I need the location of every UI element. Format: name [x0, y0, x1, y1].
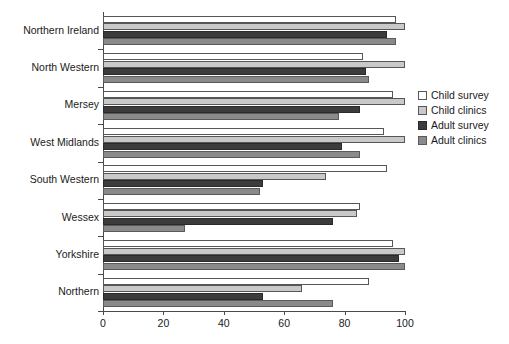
- bar-row: [103, 113, 405, 120]
- bar-child-clinics[interactable]: [103, 98, 405, 105]
- bar-child-clinics[interactable]: [103, 285, 302, 292]
- bar-group: [103, 53, 405, 83]
- x-axis-tick: [103, 311, 104, 315]
- x-axis-tick: [224, 311, 225, 315]
- bar-child-survey[interactable]: [103, 165, 387, 172]
- y-axis-tick: [98, 236, 103, 237]
- legend-item-adult-survey[interactable]: Adult survey: [418, 118, 489, 132]
- bar-adult-clinics[interactable]: [103, 225, 185, 232]
- bar-child-survey[interactable]: [103, 16, 396, 23]
- x-axis-tick-label: 100: [385, 317, 425, 329]
- bar-group: [103, 203, 405, 233]
- y-axis-tick: [98, 199, 103, 200]
- bar-row: [103, 16, 405, 23]
- category-label: Wessex: [0, 211, 99, 223]
- bar-row: [103, 61, 405, 68]
- bar-adult-survey[interactable]: [103, 31, 387, 38]
- bar-row: [103, 278, 405, 285]
- legend-swatch-icon: [418, 106, 427, 115]
- bar-row: [103, 225, 405, 232]
- category-label: North Western: [0, 61, 99, 73]
- bar-child-clinics[interactable]: [103, 136, 405, 143]
- legend-item-adult-clinics[interactable]: Adult clinics: [418, 133, 489, 147]
- bar-child-clinics[interactable]: [103, 23, 405, 30]
- bar-group: [103, 91, 405, 121]
- bar-adult-clinics[interactable]: [103, 188, 260, 195]
- y-axis-tick: [98, 274, 103, 275]
- x-axis-tick: [163, 311, 164, 315]
- x-axis-tick: [405, 311, 406, 315]
- legend-item-child-survey[interactable]: Child survey: [418, 88, 489, 102]
- legend-label: Child survey: [431, 89, 489, 101]
- y-axis-tick: [98, 162, 103, 163]
- category-label: Northern Ireland: [0, 24, 99, 36]
- x-axis-line: [103, 311, 405, 312]
- bar-row: [103, 38, 405, 45]
- bar-row: [103, 173, 405, 180]
- category-label: Yorkshire: [0, 248, 99, 260]
- bar-row: [103, 91, 405, 98]
- bar-child-clinics[interactable]: [103, 210, 357, 217]
- bar-adult-survey[interactable]: [103, 293, 263, 300]
- bar-adult-survey[interactable]: [103, 255, 399, 262]
- x-axis-tick-label: 20: [143, 317, 183, 329]
- x-axis-tick-label: 60: [264, 317, 304, 329]
- bar-child-clinics[interactable]: [103, 61, 405, 68]
- category-label: West Midlands: [0, 136, 99, 148]
- bar-row: [103, 128, 405, 135]
- category-label: Mersey: [0, 98, 99, 110]
- legend-swatch-icon: [418, 91, 427, 100]
- legend-label: Child clinics: [431, 104, 486, 116]
- bar-row: [103, 180, 405, 187]
- bar-adult-clinics[interactable]: [103, 263, 405, 270]
- x-axis-tick: [345, 311, 346, 315]
- bar-child-clinics[interactable]: [103, 173, 326, 180]
- bar-row: [103, 188, 405, 195]
- x-axis-tick-label: 0: [83, 317, 123, 329]
- bar-adult-clinics[interactable]: [103, 38, 396, 45]
- bar-row: [103, 31, 405, 38]
- bar-row: [103, 240, 405, 247]
- bar-group: [103, 165, 405, 195]
- x-axis-tick-label: 40: [204, 317, 244, 329]
- legend-item-child-clinics[interactable]: Child clinics: [418, 103, 489, 117]
- bar-row: [103, 218, 405, 225]
- x-axis-tick-label: 80: [325, 317, 365, 329]
- bar-adult-clinics[interactable]: [103, 151, 360, 158]
- bar-child-survey[interactable]: [103, 240, 393, 247]
- bar-row: [103, 255, 405, 262]
- bar-row: [103, 293, 405, 300]
- bar-child-survey[interactable]: [103, 278, 369, 285]
- category-label: South Western: [0, 173, 99, 185]
- bar-child-survey[interactable]: [103, 53, 363, 60]
- legend-label: Adult survey: [431, 119, 489, 131]
- bar-adult-survey[interactable]: [103, 218, 333, 225]
- bar-row: [103, 53, 405, 60]
- bar-row: [103, 136, 405, 143]
- bar-adult-clinics[interactable]: [103, 300, 333, 307]
- bar-adult-survey[interactable]: [103, 68, 366, 75]
- bar-adult-clinics[interactable]: [103, 76, 369, 83]
- bar-child-survey[interactable]: [103, 203, 360, 210]
- bar-row: [103, 143, 405, 150]
- bar-row: [103, 300, 405, 307]
- x-axis-tick: [284, 311, 285, 315]
- bar-row: [103, 76, 405, 83]
- bar-child-survey[interactable]: [103, 128, 384, 135]
- bar-chart: Northern IrelandNorth WesternMerseyWest …: [0, 0, 509, 344]
- bar-row: [103, 248, 405, 255]
- bar-row: [103, 23, 405, 30]
- bar-adult-survey[interactable]: [103, 106, 360, 113]
- bar-adult-survey[interactable]: [103, 180, 263, 187]
- bar-child-survey[interactable]: [103, 91, 393, 98]
- bar-group: [103, 16, 405, 46]
- y-axis-tick: [98, 49, 103, 50]
- bar-row: [103, 263, 405, 270]
- bar-adult-survey[interactable]: [103, 143, 342, 150]
- bar-row: [103, 68, 405, 75]
- bar-child-clinics[interactable]: [103, 248, 405, 255]
- bar-row: [103, 210, 405, 217]
- category-label: Northern: [0, 285, 99, 297]
- bar-row: [103, 151, 405, 158]
- bar-adult-clinics[interactable]: [103, 113, 339, 120]
